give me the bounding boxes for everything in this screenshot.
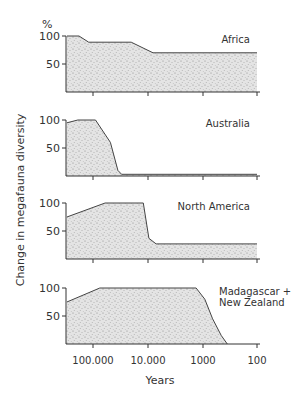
panel-label: North America xyxy=(178,201,250,212)
x-tick-label: 10.000 xyxy=(131,355,166,366)
y-tick-label: 50 xyxy=(46,142,60,155)
x-tick-label: 100 xyxy=(247,355,266,366)
panel-africa: 10050Africa xyxy=(39,30,260,96)
y-tick-label: 50 xyxy=(46,310,60,323)
panel-label: Africa xyxy=(221,34,250,45)
panel-label: Australia xyxy=(206,118,250,129)
panel-australia: 10050Australia xyxy=(39,114,260,180)
y-tick-label: 100 xyxy=(39,282,60,295)
panel-north-america: 10050North America xyxy=(39,197,260,263)
y-tick-label: 100 xyxy=(39,114,60,127)
y-tick-label: 50 xyxy=(46,58,60,71)
y-tick-label: 50 xyxy=(46,225,60,238)
y-tick-label: 100 xyxy=(39,30,60,43)
panel-label: Madagascar + xyxy=(219,286,291,297)
x-axis-title: Years xyxy=(144,374,174,387)
y-axis-title: Change in megafauna diversity xyxy=(14,113,27,286)
y-tick-label: 100 xyxy=(39,197,60,210)
x-tick-label: 100.000 xyxy=(72,355,113,366)
megafauna-chart: 10050Africa10050Australia10050North Amer… xyxy=(0,0,295,408)
y-unit-label: % xyxy=(42,18,52,31)
x-tick-label: 1000 xyxy=(190,355,215,366)
panel-madagascar-new-zealand: 10050Madagascar +New Zealand xyxy=(39,282,291,348)
panel-label: New Zealand xyxy=(219,297,285,308)
